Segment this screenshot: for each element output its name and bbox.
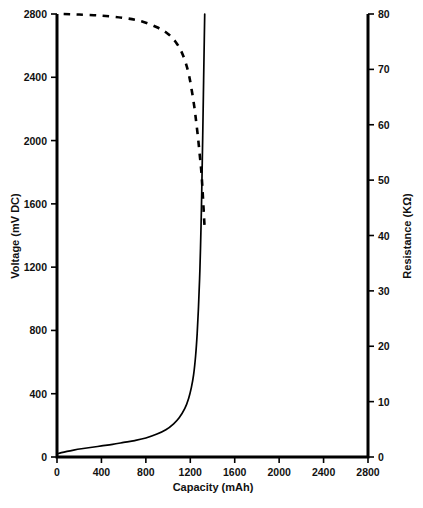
x-tick-label: 1200 xyxy=(179,466,203,478)
x-tick-label: 800 xyxy=(137,466,155,478)
y-axis-right-tick-labels: 01020304050607080 xyxy=(378,8,390,463)
x-tick-label: 2400 xyxy=(312,466,336,478)
y2-tick-label: 60 xyxy=(378,119,390,131)
y-axis-left-tick-labels: 040080012001600200024002800 xyxy=(24,8,48,463)
axis-frame xyxy=(57,14,368,457)
y-tick-label: 2800 xyxy=(24,8,48,20)
x-tick-label: 1600 xyxy=(223,466,247,478)
y-tick-label: 0 xyxy=(41,451,47,463)
y-tick-label: 1600 xyxy=(24,198,48,210)
data-series-group xyxy=(57,14,205,454)
y2-tick-label: 40 xyxy=(378,230,390,242)
y2-tick-label: 0 xyxy=(378,451,384,463)
y2-tick-label: 10 xyxy=(378,396,390,408)
y-axis-right-title: Resistance (KΩ) xyxy=(401,193,413,279)
y2-tick-label: 30 xyxy=(378,285,390,297)
x-tick-label: 400 xyxy=(93,466,111,478)
x-tick-label: 2800 xyxy=(356,466,380,478)
y-tick-label: 2400 xyxy=(24,71,48,83)
x-tick-label: 2000 xyxy=(267,466,291,478)
x-axis-tick-labels: 040080012001600200024002800 xyxy=(54,466,380,478)
y2-tick-label: 20 xyxy=(378,340,390,352)
y-tick-label: 400 xyxy=(29,388,47,400)
plot-frame xyxy=(57,14,368,457)
y2-tick-label: 80 xyxy=(378,8,390,20)
y2-tick-label: 50 xyxy=(378,174,390,186)
y-tick-label: 800 xyxy=(29,324,47,336)
chart-canvas: 040080012001600200024002800 040080012001… xyxy=(0,0,423,508)
x-tick-label: 0 xyxy=(54,466,60,478)
series-line-resistance xyxy=(64,14,205,229)
y-tick-label: 2000 xyxy=(24,135,48,147)
series-line-voltage xyxy=(57,14,205,454)
y2-tick-label: 70 xyxy=(378,63,390,75)
y-axis-left-title: Voltage (mV DC) xyxy=(9,193,21,279)
y-tick-label: 1200 xyxy=(24,261,48,273)
chart-figure: 040080012001600200024002800 040080012001… xyxy=(0,0,423,508)
x-axis-title: Capacity (mAh) xyxy=(173,481,254,493)
